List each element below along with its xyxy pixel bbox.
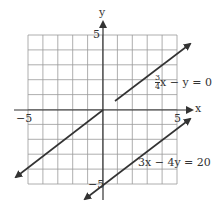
- coordinate-plane: [0, 0, 222, 216]
- y-max-tick: 5: [93, 28, 100, 41]
- y-axis-label: y: [99, 6, 105, 19]
- x-max-tick: 5: [174, 112, 181, 125]
- x-axis-label: x: [195, 102, 201, 115]
- eq2-label: 3x − 4y = 20: [138, 156, 211, 169]
- eq1-label: 34x − y = 0: [155, 74, 212, 91]
- y-min-tick: −5: [88, 178, 104, 191]
- x-min-tick: −5: [16, 112, 32, 125]
- line-eq1: [115, 44, 190, 101]
